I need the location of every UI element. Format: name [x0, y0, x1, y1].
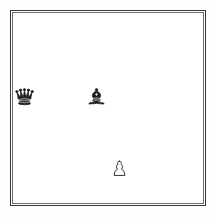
chessboard-inner-frame — [12, 12, 204, 204]
piece-slot-f6 — [132, 61, 156, 85]
chessboard-frame — [10, 10, 206, 206]
piece-slot-e5 — [108, 84, 132, 108]
piece-slot-a8 — [13, 13, 37, 37]
piece-slot-a2 — [13, 156, 37, 180]
piece-slot-g1 — [156, 179, 180, 203]
chess-diagram-page — [0, 0, 217, 219]
piece-slot-d2 — [84, 156, 108, 180]
piece-slot-f4 — [132, 108, 156, 132]
piece-slot-a1 — [13, 179, 37, 203]
black-queen-icon[interactable] — [14, 86, 35, 107]
piece-slot-a3 — [13, 132, 37, 156]
piece-slot-b6 — [37, 61, 61, 85]
piece-slot-c1 — [61, 179, 85, 203]
piece-slot-b7 — [37, 37, 61, 61]
piece-slot-e1 — [108, 179, 132, 203]
piece-slot-c3 — [61, 132, 85, 156]
piece-slot-h1 — [179, 179, 203, 203]
piece-slot-e6 — [108, 61, 132, 85]
piece-slot-e8 — [108, 13, 132, 37]
piece-slot-f3 — [132, 132, 156, 156]
piece-slot-c7 — [61, 37, 85, 61]
piece-slot-c2 — [61, 156, 85, 180]
piece-slot-d6 — [84, 61, 108, 85]
piece-slot-d7 — [84, 37, 108, 61]
piece-slot-h3 — [179, 132, 203, 156]
piece-slot-e4 — [108, 108, 132, 132]
piece-slot-f8 — [132, 13, 156, 37]
piece-slot-b4 — [37, 108, 61, 132]
piece-slot-f5 — [132, 84, 156, 108]
piece-slot-c4 — [61, 108, 85, 132]
piece-slot-b3 — [37, 132, 61, 156]
piece-slot-a4 — [13, 108, 37, 132]
chess-piece-layer — [13, 13, 203, 203]
piece-slot-b2 — [37, 156, 61, 180]
piece-slot-g5 — [156, 84, 180, 108]
piece-slot-f7 — [132, 37, 156, 61]
piece-slot-h5 — [179, 84, 203, 108]
piece-slot-f1 — [132, 179, 156, 203]
piece-slot-a5[interactable] — [13, 84, 37, 108]
piece-slot-e2[interactable] — [108, 156, 132, 180]
piece-slot-a7 — [13, 37, 37, 61]
piece-slot-d4 — [84, 108, 108, 132]
piece-slot-a6 — [13, 61, 37, 85]
piece-slot-d1 — [84, 179, 108, 203]
piece-slot-e7 — [108, 37, 132, 61]
piece-slot-g7 — [156, 37, 180, 61]
piece-slot-g4 — [156, 108, 180, 132]
white-pawn-icon[interactable] — [109, 157, 130, 178]
piece-slot-d5[interactable] — [84, 84, 108, 108]
piece-slot-e3 — [108, 132, 132, 156]
piece-slot-c6 — [61, 61, 85, 85]
piece-slot-b1 — [37, 179, 61, 203]
piece-slot-h7 — [179, 37, 203, 61]
piece-slot-d3 — [84, 132, 108, 156]
piece-slot-c5 — [61, 84, 85, 108]
piece-slot-h4 — [179, 108, 203, 132]
piece-slot-g3 — [156, 132, 180, 156]
piece-slot-g2 — [156, 156, 180, 180]
piece-slot-b5 — [37, 84, 61, 108]
piece-slot-h6 — [179, 61, 203, 85]
piece-slot-g8 — [156, 13, 180, 37]
piece-slot-f2 — [132, 156, 156, 180]
piece-slot-d8 — [84, 13, 108, 37]
piece-slot-g6 — [156, 61, 180, 85]
piece-slot-h2 — [179, 156, 203, 180]
piece-slot-c8 — [61, 13, 85, 37]
piece-slot-b8 — [37, 13, 61, 37]
black-bishop-icon[interactable] — [86, 86, 107, 107]
piece-slot-h8 — [179, 13, 203, 37]
